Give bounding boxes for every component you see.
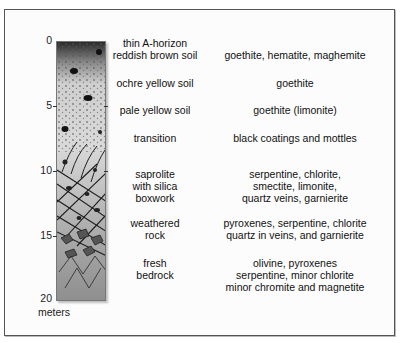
mineral-line: olivine, pyroxenes	[200, 257, 390, 269]
horizon-label-line: ochre yellow soil	[108, 77, 202, 89]
depth-tick-mark	[53, 236, 57, 237]
mineral-line: serpentine, chlorite,	[200, 168, 390, 180]
horizon-label-a-horizon: thin A-horizon reddish brown soil	[108, 37, 202, 61]
horizon-label-line: weathered	[108, 217, 202, 229]
depth-tick-label: 10	[32, 164, 52, 176]
horizon-label-line: reddish brown soil	[108, 49, 202, 61]
horizon-label-transition: transition	[108, 132, 202, 144]
depth-tick-label: 0	[32, 34, 52, 46]
horizon-label-weathered-rock: weathered rock	[108, 217, 202, 241]
horizon-label-line: transition	[108, 132, 202, 144]
horizon-label-line: thin A-horizon	[108, 37, 202, 49]
minerals-saprolite: serpentine, chlorite, smectite, limonite…	[200, 168, 390, 204]
mineral-line: black coatings and mottles	[200, 132, 390, 144]
mineral-line: goethite, hematite, maghemite	[200, 49, 390, 61]
mineral-line: pyroxenes, serpentine, chlorite	[200, 217, 390, 229]
horizon-label-line: saprolite	[108, 168, 202, 180]
mineral-line: smectite, limonite,	[200, 180, 390, 192]
depth-tick-mark	[53, 106, 57, 107]
horizon-label-line: bedrock	[108, 269, 202, 281]
minerals-transition: black coatings and mottles	[200, 132, 390, 144]
minerals-ochre-yellow-soil: goethite	[200, 77, 390, 89]
soil-profile-column	[56, 41, 106, 301]
depth-tick-label: 5	[32, 99, 52, 111]
mineral-line: quartz veins, garnierite	[200, 192, 390, 204]
horizon-label-line: boxwork	[108, 192, 202, 204]
horizon-label-line: pale yellow soil	[108, 104, 202, 116]
mineral-line: minor chromite and magnetite	[200, 281, 390, 293]
mineral-line: goethite	[200, 77, 390, 89]
minerals-fresh-bedrock: olivine, pyroxenes serpentine, minor chl…	[200, 257, 390, 293]
mineral-line: goethite (limonite)	[200, 104, 390, 116]
horizon-label-pale-yellow-soil: pale yellow soil	[108, 104, 202, 116]
soil-profile-graphic	[57, 42, 106, 301]
horizon-label-line: with silica	[108, 180, 202, 192]
depth-tick-mark	[53, 171, 57, 172]
minerals-pale-yellow-soil: goethite (limonite)	[200, 104, 390, 116]
horizon-label-line: fresh	[108, 257, 202, 269]
minerals-weathered-rock: pyroxenes, serpentine, chlorite quartz i…	[200, 217, 390, 241]
depth-unit-label: meters	[38, 306, 70, 318]
horizon-label-line: rock	[108, 229, 202, 241]
horizon-label-fresh-bedrock: fresh bedrock	[108, 257, 202, 281]
mineral-line: quartz in veins, and garnierite	[200, 229, 390, 241]
horizon-label-ochre-yellow-soil: ochre yellow soil	[108, 77, 202, 89]
depth-tick-label: 15	[32, 229, 52, 241]
depth-tick-label: 20	[32, 292, 52, 304]
minerals-a-horizon: goethite, hematite, maghemite	[200, 49, 390, 61]
mineral-line: serpentine, minor chlorite	[200, 269, 390, 281]
horizon-label-saprolite: saprolite with silica boxwork	[108, 168, 202, 204]
